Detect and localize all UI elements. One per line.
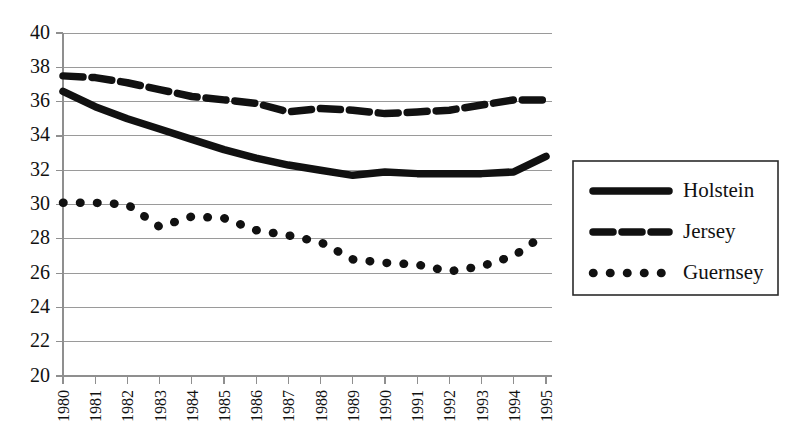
legend-label-holstein: Holstein bbox=[683, 178, 755, 202]
y-axis-tick-label: 34 bbox=[30, 123, 50, 145]
y-axis-tick-label: 36 bbox=[30, 89, 50, 111]
chart-legend: HolsteinJerseyGuernsey bbox=[573, 161, 778, 295]
y-axis-tick-label: 26 bbox=[30, 261, 50, 283]
series-line-guernsey bbox=[63, 203, 546, 272]
x-axis-labels-group: 1980198119821983198419851986198719881989… bbox=[55, 390, 555, 422]
chart-container: 2022242628303234363840 19801981198219831… bbox=[0, 0, 787, 444]
x-axis-ticks-group bbox=[63, 376, 546, 384]
x-axis-tick-label: 1987 bbox=[280, 390, 297, 422]
line-chart: 2022242628303234363840 19801981198219831… bbox=[0, 0, 787, 444]
x-axis-tick-label: 1980 bbox=[55, 390, 72, 422]
x-axis-tick-label: 1982 bbox=[119, 390, 136, 422]
x-axis-tick-label: 1990 bbox=[377, 390, 394, 422]
x-axis-tick-label: 1986 bbox=[248, 390, 265, 422]
x-axis-tick-label: 1988 bbox=[313, 390, 330, 422]
legend-label-guernsey: Guernsey bbox=[683, 260, 764, 284]
data-series-group bbox=[63, 76, 546, 272]
x-axis-tick-label: 1985 bbox=[216, 390, 233, 422]
x-axis-tick-label: 1983 bbox=[152, 390, 169, 422]
y-axis-tick-label: 20 bbox=[30, 364, 50, 386]
x-axis-tick-label: 1989 bbox=[345, 390, 362, 422]
y-axis-tick-label: 40 bbox=[30, 21, 50, 43]
x-axis-tick-label: 1995 bbox=[538, 390, 555, 422]
x-axis-tick-label: 1991 bbox=[409, 390, 426, 422]
series-line-jersey bbox=[63, 76, 546, 114]
y-axis-tick-label: 30 bbox=[30, 192, 50, 214]
y-axis-tick-label: 24 bbox=[30, 295, 50, 317]
x-axis-tick-label: 1981 bbox=[87, 390, 104, 422]
x-axis-tick-label: 1984 bbox=[184, 390, 201, 422]
y-axis-tick-label: 22 bbox=[30, 329, 50, 351]
x-axis-tick-label: 1994 bbox=[506, 390, 523, 422]
y-axis-labels-group: 2022242628303234363840 bbox=[30, 21, 50, 386]
x-axis-tick-label: 1992 bbox=[441, 390, 458, 422]
legend-label-jersey: Jersey bbox=[683, 219, 736, 243]
y-axis-tick-label: 38 bbox=[30, 55, 50, 77]
x-axis-tick-label: 1993 bbox=[474, 390, 491, 422]
y-axis-tick-label: 28 bbox=[30, 226, 50, 248]
y-axis-tick-label: 32 bbox=[30, 158, 50, 180]
